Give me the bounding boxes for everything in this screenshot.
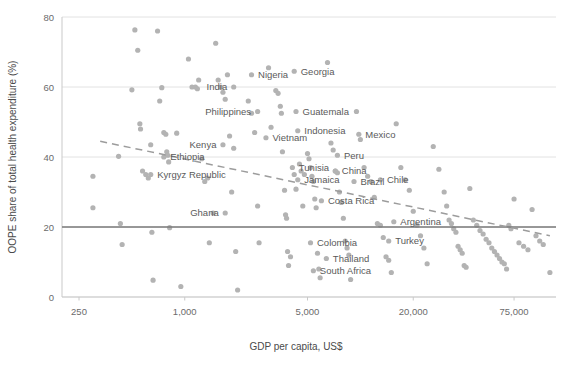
data-point (471, 217, 476, 222)
data-point (220, 142, 225, 147)
data-point (116, 154, 121, 159)
data-point (255, 203, 260, 208)
data-point (467, 186, 472, 191)
data-point (149, 230, 154, 235)
point-labels: EthiopiaKyrgyz RepublicKenyaGhanaIndiaNi… (157, 66, 441, 277)
data-point (268, 125, 273, 130)
data-point (319, 198, 324, 203)
data-point (398, 165, 403, 170)
data-point (529, 207, 534, 212)
data-point (425, 261, 430, 266)
point-label-tunisia: Tunisia (299, 162, 330, 173)
data-point (135, 48, 140, 53)
data-point (231, 84, 236, 89)
data-point (252, 130, 257, 135)
data-point (502, 261, 507, 266)
data-point (246, 98, 251, 103)
point-label-costa-rica: Costa Rica (328, 195, 375, 206)
point-label-indonesia: Indonesia (304, 125, 346, 136)
data-point (293, 109, 298, 114)
data-point (328, 140, 333, 145)
data-point (324, 256, 329, 261)
chart-canvas: EthiopiaKyrgyz RepublicKenyaGhanaIndiaNi… (0, 0, 564, 365)
data-point (282, 188, 287, 193)
point-label-philippines: Philippines (205, 106, 251, 117)
data-point (186, 56, 191, 61)
x-tick-label-250: 250 (71, 306, 87, 317)
data-point (227, 133, 232, 138)
data-point (90, 205, 95, 210)
point-label-south-africa: South Africa (320, 265, 372, 276)
point-label-kenya: Kenya (190, 139, 218, 150)
point-label-turkey: Turkey (395, 235, 424, 246)
data-point (308, 240, 313, 245)
data-point (481, 231, 486, 236)
data-point (229, 189, 234, 194)
point-label-mexico: Mexico (365, 129, 395, 140)
data-point (431, 144, 436, 149)
data-point (280, 149, 285, 154)
data-point (178, 284, 183, 289)
data-point (285, 249, 290, 254)
data-point (312, 196, 317, 201)
data-point (394, 121, 399, 126)
x-axis-title: GDP per capita, US$ (249, 341, 343, 352)
data-point (255, 109, 260, 114)
point-label-brazil: Brazil (361, 176, 385, 187)
data-point (279, 111, 284, 116)
data-point (249, 72, 254, 77)
x-tick-label-20000: 20,000 (399, 306, 428, 317)
point-label-peru: Peru (344, 150, 364, 161)
data-point (331, 147, 336, 152)
data-point (325, 60, 330, 65)
data-point (547, 270, 552, 275)
y-tick-label-0: 0 (49, 292, 54, 303)
y-tick-label-60: 60 (43, 82, 54, 93)
data-point (207, 240, 212, 245)
x-tick-label-75000: 75,000 (500, 306, 529, 317)
y-tick-label-40: 40 (43, 152, 54, 163)
data-point (129, 87, 134, 92)
data-point (348, 277, 353, 282)
data-point (288, 254, 293, 259)
point-label-argentina: Argentina (400, 216, 441, 227)
data-point (256, 240, 261, 245)
data-point (90, 174, 95, 179)
x-tick-label-5000: 5,000 (296, 306, 320, 317)
y-tick-label-20: 20 (43, 222, 54, 233)
data-point (444, 203, 449, 208)
data-point (464, 265, 469, 270)
data-point (278, 104, 283, 109)
point-label-georgia: Georgia (301, 66, 336, 77)
data-point (521, 244, 526, 249)
data-point (163, 132, 168, 137)
data-point (286, 263, 291, 268)
data-point (442, 189, 447, 194)
data-point (354, 109, 359, 114)
data-point (386, 258, 391, 263)
point-label-guatemala: Guatemala (303, 106, 350, 117)
data-point (295, 177, 300, 182)
data-point (159, 85, 164, 90)
data-point (196, 77, 201, 82)
data-point (386, 238, 391, 243)
data-point (157, 98, 162, 103)
data-point (263, 135, 268, 140)
data-point (381, 235, 386, 240)
point-label-colombia: Colombia (317, 237, 358, 248)
data-point (275, 91, 280, 96)
data-point (231, 146, 236, 151)
point-label-kyrgyz-republic: Kyrgyz Republic (157, 169, 226, 180)
data-point (407, 188, 412, 193)
data-point (305, 151, 310, 156)
data-point (148, 142, 153, 147)
data-point (486, 240, 491, 245)
y-tick-label-80: 80 (43, 12, 54, 23)
y-tick-labels: 020406080 (43, 12, 54, 303)
data-point (411, 209, 416, 214)
data-point (293, 187, 298, 192)
data-point (460, 251, 465, 256)
data-point (174, 131, 179, 136)
point-label-india: India (207, 81, 228, 92)
data-point (300, 203, 305, 208)
